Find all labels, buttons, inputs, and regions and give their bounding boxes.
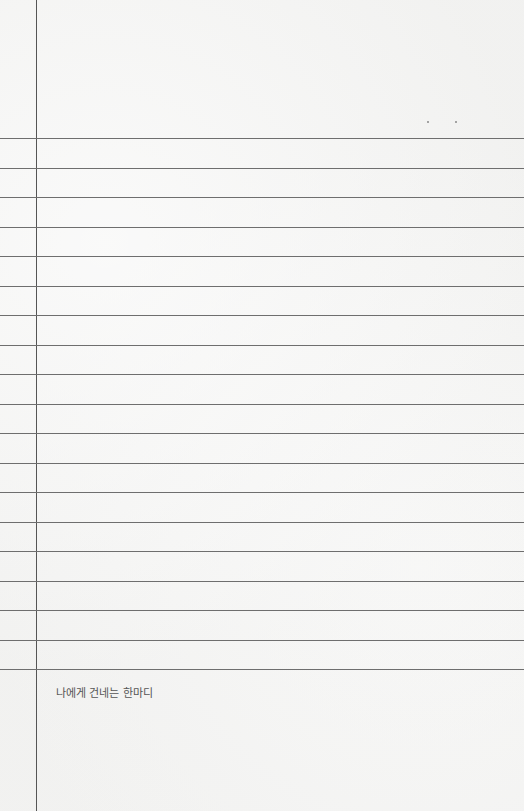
ruled-line (0, 345, 524, 346)
caption-text: 나에게 건네는 한마디 (56, 684, 153, 700)
ruled-line (0, 315, 524, 316)
ruled-line (0, 463, 524, 464)
ruled-line (0, 138, 524, 139)
margin-line (36, 0, 37, 811)
notebook-paper: 나에게 건네는 한마디 (0, 0, 524, 811)
ruled-line (0, 610, 524, 611)
ruled-line (0, 256, 524, 257)
ruled-line (0, 669, 524, 670)
ruled-line (0, 197, 524, 198)
ruled-line (0, 227, 524, 228)
dot-mark (427, 121, 429, 123)
ruled-line (0, 374, 524, 375)
ruled-line (0, 404, 524, 405)
ruled-line (0, 551, 524, 552)
ruled-line (0, 286, 524, 287)
ruled-line (0, 168, 524, 169)
ruled-line (0, 433, 524, 434)
ruled-line (0, 522, 524, 523)
ruled-line (0, 581, 524, 582)
ruled-line (0, 640, 524, 641)
ruled-line (0, 492, 524, 493)
dot-mark (455, 121, 457, 123)
